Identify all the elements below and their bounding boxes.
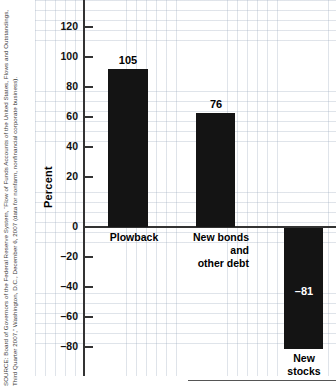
y-tick-label-40: 40 [42,141,78,152]
bar-new-bonds-and-other-debt[interactable] [196,113,235,227]
y-tick-label-neg20: –20 [42,251,78,262]
category-label-new-stocks-line2: stocks [274,365,334,378]
y-tick-mark-80 [85,86,93,88]
y-tick-mark-neg60 [85,316,93,318]
y-tick-mark-neg80 [85,346,93,348]
y-axis-title-text: Percent [42,166,54,208]
y-tick-mark-60 [85,116,93,118]
y-tick-mark-40 [85,146,93,148]
category-label-new-stocks-line1: New [274,352,334,365]
y-tick-label-0: 0 [42,221,78,232]
y-tick-mark-neg40 [85,286,93,288]
y-tick-label-neg40: –40 [42,281,78,292]
y-tick-label-100: 100 [42,51,78,62]
category-label-new-bonds-line1: New bonds [155,231,249,244]
bar-value-new-stocks: –81 [274,285,334,297]
bar-plowback[interactable] [108,69,148,227]
bottom-divider [188,380,336,381]
y-axis-title: Percent [30,120,44,210]
y-tick-mark-neg20 [85,256,93,258]
y-tick-label-neg80: –80 [42,341,78,352]
y-tick-mark-20 [85,176,93,178]
category-label-new-bonds-line3: other debt [155,257,249,270]
bar-value-new-bonds-and-other-debt: 76 [186,98,246,110]
category-label-new-bonds-line2: and [155,244,249,257]
y-tick-label-80: 80 [42,81,78,92]
y-tick-label-60: 60 [42,111,78,122]
y-tick-mark-120 [85,26,93,28]
bar-value-plowback: 105 [98,54,158,66]
y-tick-label-neg60: –60 [42,311,78,322]
y-tick-label-120: 120 [42,21,78,32]
y-tick-mark-100 [85,56,93,58]
